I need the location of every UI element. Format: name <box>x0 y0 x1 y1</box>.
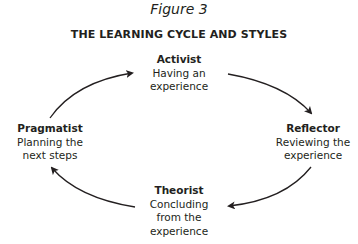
node-desc: next steps <box>10 149 90 163</box>
node-pragmatist: Pragmatist Planning the next steps <box>10 122 90 163</box>
node-desc: Having an <box>129 67 229 81</box>
node-name: Reflector <box>268 122 358 136</box>
arrow-reflector-to-theorist <box>229 167 311 206</box>
node-reflector: Reflector Reviewing the experience <box>268 122 358 163</box>
node-name: Pragmatist <box>10 122 90 136</box>
node-theorist: Theorist Concluding from the experience <box>134 184 224 238</box>
node-desc: experience <box>268 149 358 163</box>
node-desc: Reviewing the <box>268 136 358 150</box>
node-desc: experience <box>129 80 229 94</box>
node-desc: from the <box>134 211 224 225</box>
node-desc: experience <box>134 225 224 239</box>
arrow-pragmatist-to-activist <box>50 73 132 118</box>
arrow-activist-to-reflector <box>228 74 311 113</box>
arrow-theorist-to-pragmatist <box>52 168 135 207</box>
node-name: Activist <box>129 53 229 67</box>
node-desc: Concluding <box>134 198 224 212</box>
node-desc: Planning the <box>10 136 90 150</box>
node-activist: Activist Having an experience <box>129 53 229 94</box>
node-name: Theorist <box>134 184 224 198</box>
